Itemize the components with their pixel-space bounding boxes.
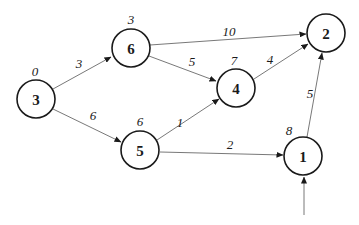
node-6: 6 3 (112, 12, 150, 67)
edge-weight: 10 (223, 24, 237, 39)
node-1: 1 8 (284, 123, 322, 175)
node-5: 5 6 (121, 114, 159, 169)
graph-diagram: 3 6 10 5 1 4 2 5 3 0 6 3 2 (0, 0, 359, 225)
node-label: 6 (127, 41, 135, 57)
edge-weight: 5 (307, 86, 314, 101)
node-label: 4 (232, 81, 240, 97)
edge-5-1: 2 (160, 137, 283, 155)
node-label: 3 (32, 92, 40, 108)
edge-weight: 3 (75, 56, 83, 71)
distance-label: 8 (286, 123, 293, 138)
node-label: 2 (322, 26, 330, 42)
edge-3-6: 3 (53, 56, 111, 89)
node-2: 2 (307, 14, 345, 52)
node-3: 3 0 (17, 64, 55, 118)
node-4: 4 7 (217, 53, 255, 107)
node-label: 5 (136, 143, 144, 159)
edge-1-2: 5 (307, 53, 322, 137)
edge-weight: 4 (267, 52, 274, 67)
edge-4-2: 4 (254, 44, 308, 79)
distance-label: 6 (137, 114, 144, 129)
edge-weight: 2 (227, 137, 234, 152)
edge-6-2: 10 (150, 24, 306, 45)
distance-label: 3 (127, 12, 135, 27)
distance-label: 0 (32, 64, 39, 79)
edge-weight: 1 (177, 115, 184, 130)
edge-6-4: 5 (149, 54, 216, 81)
edge-weight: 6 (90, 108, 97, 123)
edge-weight: 5 (189, 54, 196, 69)
distance-label: 7 (231, 53, 238, 68)
node-label: 1 (299, 149, 307, 165)
edge-5-4: 1 (157, 99, 219, 140)
edge-3-5: 6 (53, 108, 121, 142)
